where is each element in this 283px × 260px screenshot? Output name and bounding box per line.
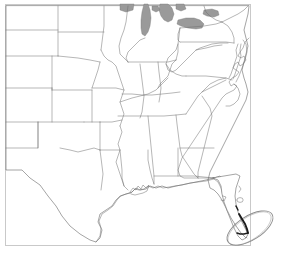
land-outline-group xyxy=(6,6,249,242)
florida-atlantic-inlet xyxy=(239,186,241,192)
map-screenshot xyxy=(0,0,283,260)
lake-okeechobee xyxy=(237,198,243,203)
map-canvas[interactable] xyxy=(0,0,283,260)
map-svg[interactable] xyxy=(0,0,283,260)
us-landmass-outline xyxy=(6,6,249,242)
